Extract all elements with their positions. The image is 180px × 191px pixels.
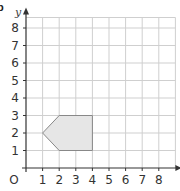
origin-label: O [9, 173, 18, 187]
coordinate-grid: 1234567812345678Oyx [0, 0, 180, 191]
x-tick-label: 7 [138, 173, 146, 187]
x-tick-label: 1 [39, 173, 47, 187]
y-tick-label: 2 [11, 126, 19, 140]
x-tick-label: 6 [122, 173, 130, 187]
y-tick-label: 8 [11, 21, 19, 35]
y-tick-label: 4 [11, 91, 19, 105]
grid-lines [26, 18, 175, 169]
x-axis-arrow-icon [175, 165, 180, 171]
shapes [43, 116, 93, 151]
tick-labels: 1234567812345678Oyx [9, 6, 180, 188]
shape-pentagon [43, 116, 93, 151]
y-tick-label: 7 [11, 39, 19, 53]
y-tick-label: 3 [11, 109, 19, 123]
y-tick-label: 6 [11, 56, 19, 70]
y-axis-arrow-icon [23, 8, 29, 15]
y-tick-label: 5 [11, 74, 19, 88]
y-axis-label: y [14, 6, 22, 19]
axes [22, 8, 180, 173]
x-tick-label: 8 [155, 173, 163, 187]
y-tick-label: 1 [11, 144, 19, 158]
x-tick-label: 3 [72, 173, 80, 187]
x-tick-label: 4 [89, 173, 97, 187]
x-tick-label: 2 [55, 173, 63, 187]
x-tick-label: 5 [105, 173, 113, 187]
